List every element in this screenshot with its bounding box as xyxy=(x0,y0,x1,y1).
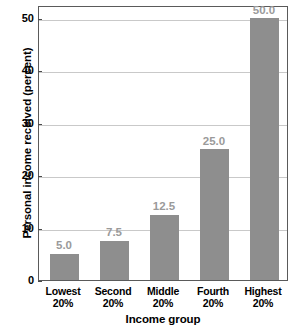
x-tick-label-line1: Fourth xyxy=(197,285,229,297)
y-tick-label-text: 50 xyxy=(14,13,34,24)
bar-group[interactable]: 5.0 xyxy=(50,7,79,280)
y-tick-mark xyxy=(38,229,42,230)
y-tick-mark xyxy=(38,281,42,282)
x-tick-label-line1: Lowest xyxy=(46,285,81,297)
y-tick-label: 40 xyxy=(14,65,34,77)
x-axis-title: Income group xyxy=(38,313,288,325)
y-axis-ticks: 01020304050 xyxy=(14,0,34,331)
y-tick-mark xyxy=(38,19,42,20)
bar-value-label: 25.0 xyxy=(188,136,241,148)
bar-group[interactable]: 12.5 xyxy=(150,7,179,280)
x-tick-label: Second20% xyxy=(85,285,141,309)
bar[interactable] xyxy=(250,18,279,280)
bar[interactable] xyxy=(50,254,79,280)
bar-value-label: 7.5 xyxy=(88,227,141,239)
y-tick-mark xyxy=(38,176,42,177)
y-tick-mark xyxy=(38,124,42,125)
y-tick-label: 10 xyxy=(14,223,34,235)
x-tick-label: Fourth20% xyxy=(185,285,241,309)
y-tick-label-text: 40 xyxy=(14,65,34,76)
x-tick-label-line2: 20% xyxy=(235,297,291,309)
bar[interactable] xyxy=(100,241,129,280)
x-tick-label: Highest20% xyxy=(235,285,291,309)
y-tick-label: 50 xyxy=(14,13,34,25)
x-tick-label-line2: 20% xyxy=(35,297,91,309)
bar-group[interactable]: 7.5 xyxy=(100,7,129,280)
y-tick-label: 20 xyxy=(14,170,34,182)
x-axis-ticks: Lowest20%Second20%Middle20%Fourth20%High… xyxy=(38,285,288,315)
y-tick-label-text: 0 xyxy=(14,275,34,286)
y-tick-label-text: 30 xyxy=(14,118,34,129)
bar[interactable] xyxy=(150,215,179,280)
x-tick-label-line1: Middle xyxy=(147,285,179,297)
y-tick-label-text: 20 xyxy=(14,170,34,181)
bar-group[interactable]: 50.0 xyxy=(250,7,279,280)
y-tick-label: 30 xyxy=(14,118,34,130)
x-tick-label-line2: 20% xyxy=(85,297,141,309)
y-tick-label-text: 10 xyxy=(14,223,34,234)
bar-group[interactable]: 25.0 xyxy=(200,7,229,280)
bar-value-label: 12.5 xyxy=(138,201,191,213)
x-tick-label-line2: 20% xyxy=(135,297,191,309)
bar-chart: Personal income received (percent) 01020… xyxy=(0,0,298,331)
x-tick-label-line2: 20% xyxy=(185,297,241,309)
y-tick-mark xyxy=(38,71,42,72)
y-tick-label: 0 xyxy=(14,275,34,287)
bar-value-label: 5.0 xyxy=(38,240,91,252)
x-tick-label-line1: Second xyxy=(95,285,132,297)
bar[interactable] xyxy=(200,149,229,280)
bar-value-label: 50.0 xyxy=(238,5,291,17)
x-tick-label-line1: Highest xyxy=(244,285,281,297)
bars-layer: 5.07.512.525.050.0 xyxy=(39,7,287,280)
x-tick-label: Middle20% xyxy=(135,285,191,309)
x-tick-label: Lowest20% xyxy=(35,285,91,309)
plot-area: 5.07.512.525.050.0 xyxy=(38,6,288,281)
